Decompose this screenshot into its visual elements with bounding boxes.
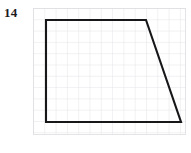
graph-paper-grid bbox=[33, 8, 186, 135]
problem-number-label: 14 bbox=[4, 5, 17, 20]
grid-lines bbox=[33, 8, 186, 135]
worksheet-page: 14 bbox=[0, 0, 191, 153]
figure-area bbox=[33, 8, 186, 135]
